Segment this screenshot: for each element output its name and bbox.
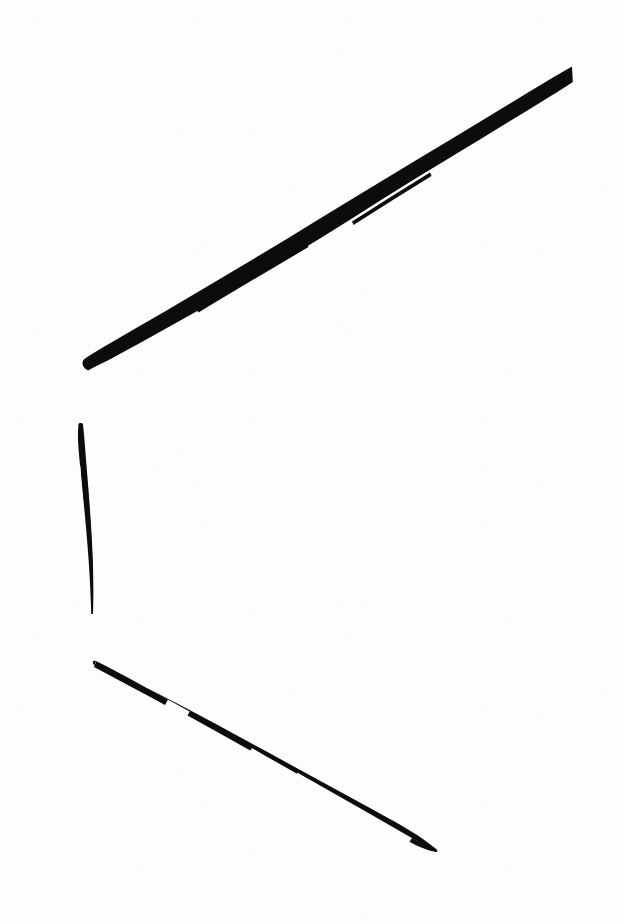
ink-stroke-layer xyxy=(0,0,624,924)
vertical-stroke-body xyxy=(78,423,93,614)
lower-diagonal-stroke-left-shoulder xyxy=(94,662,168,706)
upper-diagonal-stroke-thickening xyxy=(196,243,309,313)
lower-diagonal-stroke-drybrush-split xyxy=(250,748,412,843)
upper-diagonal-stroke xyxy=(83,67,573,371)
upper-diagonal-stroke-body xyxy=(83,67,573,371)
scanned-page-canvas: Three hand-drawn ink strokes forming an … xyxy=(0,0,624,924)
lower-diagonal-stroke xyxy=(93,661,437,852)
vertical-stroke xyxy=(78,423,93,614)
